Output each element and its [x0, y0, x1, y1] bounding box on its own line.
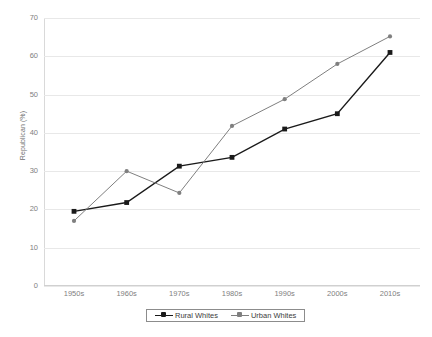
legend-label-rural: Rural Whites — [175, 311, 218, 320]
y-tick-label-0: 0 — [16, 282, 38, 290]
data-point-rural-whites-1960s[interactable] — [124, 200, 129, 205]
x-tick-label-1990s: 1990s — [255, 289, 315, 298]
x-tick-label-2010s: 2010s — [360, 289, 420, 298]
legend-item-urban-whites[interactable]: Urban Whites — [231, 311, 296, 320]
data-point-rural-whites-2010s[interactable] — [388, 50, 393, 55]
y-tick-label-20: 20 — [16, 205, 38, 213]
y-tick-label-10: 10 — [16, 244, 38, 252]
data-point-urban-whites-2000s[interactable] — [335, 62, 339, 66]
legend-label-urban: Urban Whites — [251, 311, 296, 320]
x-tick-label-1950s: 1950s — [44, 289, 104, 298]
y-tick-label-50: 50 — [16, 91, 38, 99]
y-axis-tick-labels: 706050403020100 — [14, 0, 38, 337]
x-tick-label-2000s: 2000s — [307, 289, 367, 298]
series-line-urban-whites — [74, 36, 390, 221]
legend-marker-icon-rural — [155, 311, 173, 319]
y-tick-label-70: 70 — [16, 14, 38, 22]
bottom-caption-cropped — [0, 330, 432, 337]
x-tick-label-1960s: 1960s — [97, 289, 157, 298]
data-point-urban-whites-2010s[interactable] — [388, 34, 392, 38]
chart-legend: Rural Whites Urban Whites — [146, 309, 305, 322]
data-point-urban-whites-1960s[interactable] — [125, 169, 129, 173]
x-tick-label-1970s: 1970s — [149, 289, 209, 298]
plot-area — [44, 18, 420, 286]
data-point-urban-whites-1990s[interactable] — [283, 97, 287, 101]
data-point-rural-whites-1990s[interactable] — [282, 127, 287, 132]
y-tick-label-30: 30 — [16, 167, 38, 175]
data-point-rural-whites-2000s[interactable] — [335, 111, 340, 116]
series-layer — [44, 18, 420, 286]
x-tick-label-1980s: 1980s — [202, 289, 262, 298]
line-chart: Republican (%) 706050403020100 1950s1960… — [0, 0, 432, 337]
legend-marker-icon-urban — [231, 311, 249, 319]
data-point-urban-whites-1980s[interactable] — [230, 124, 234, 128]
data-point-urban-whites-1970s[interactable] — [177, 191, 181, 195]
series-line-rural-whites — [74, 52, 390, 211]
x-axis-tick-labels: 1950s1960s1970s1980s1990s2000s2010s — [44, 289, 420, 303]
data-point-rural-whites-1970s[interactable] — [177, 164, 182, 169]
y-tick-label-40: 40 — [16, 129, 38, 137]
data-point-rural-whites-1980s[interactable] — [230, 155, 235, 160]
y-tick-label-60: 60 — [16, 52, 38, 60]
data-point-urban-whites-1950s[interactable] — [72, 219, 76, 223]
gridline-0 — [44, 286, 420, 287]
legend-item-rural-whites[interactable]: Rural Whites — [155, 311, 218, 320]
data-point-rural-whites-1950s[interactable] — [72, 209, 77, 214]
